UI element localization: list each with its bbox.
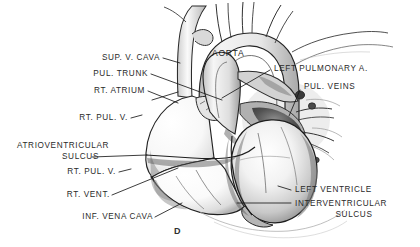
label-sulcus-2: SULCUS <box>295 210 413 220</box>
label-pul-veins: PUL. VEINS <box>304 82 355 92</box>
left-subclavian-artery <box>266 5 281 37</box>
right-brachiocephalic-vein <box>164 7 186 22</box>
label-rt-vent: RT. VENT. <box>0 190 110 200</box>
label-sulcus-1: SULCUS <box>17 152 144 162</box>
leader-rt-pul-v-lower <box>119 169 131 172</box>
label-aorta: AORTA <box>212 48 244 58</box>
leader-inf-vena-cava <box>155 203 182 217</box>
figure-letter: D <box>174 226 181 236</box>
label-interventricular: INTERVENTRICULAR <box>295 199 387 209</box>
brachiocephalic-trunk <box>216 4 222 42</box>
azygos-vein-arch <box>192 30 213 46</box>
label-rt-pul-v-lower: RT. PUL. V. <box>0 167 116 177</box>
label-pul-trunk: PUL. TRUNK <box>0 69 148 79</box>
figure-canvas: SUP. V. CAVA PUL. TRUNK RT. ATRIUM RT. P… <box>0 0 420 247</box>
pericardial-wisp-upper <box>300 52 370 60</box>
brachiocephalic-trunk-edge <box>228 3 231 38</box>
left-common-carotid-edge <box>252 2 254 33</box>
label-inf-vena-cava: INF. VENA CAVA <box>0 212 153 222</box>
pericardial-base-haze-2 <box>214 221 347 238</box>
label-sup-v-cava: SUP. V. CAVA <box>0 53 160 63</box>
label-left-pulmonary-a: LEFT PULMONARY A. <box>274 64 368 74</box>
label-left-ventricle: LEFT VENTRICLE <box>295 185 372 195</box>
label-rt-pul-v-upper: RT. PUL. V. <box>0 113 128 123</box>
pulmonary-vein-stump-2 <box>308 103 315 109</box>
descending-aorta <box>292 32 388 53</box>
label-atrioventricular: ATRIOVENTRICULAR <box>17 141 109 151</box>
leader-rt-pul-v-upper <box>131 115 142 118</box>
label-rt-atrium: RT. ATRIUM <box>0 86 145 96</box>
left-common-carotid <box>242 2 243 34</box>
leader-rt-atrium-cross <box>152 92 178 100</box>
descending-aorta-lower-edge <box>296 45 393 64</box>
left-subclavian-artery-edge <box>275 11 293 43</box>
